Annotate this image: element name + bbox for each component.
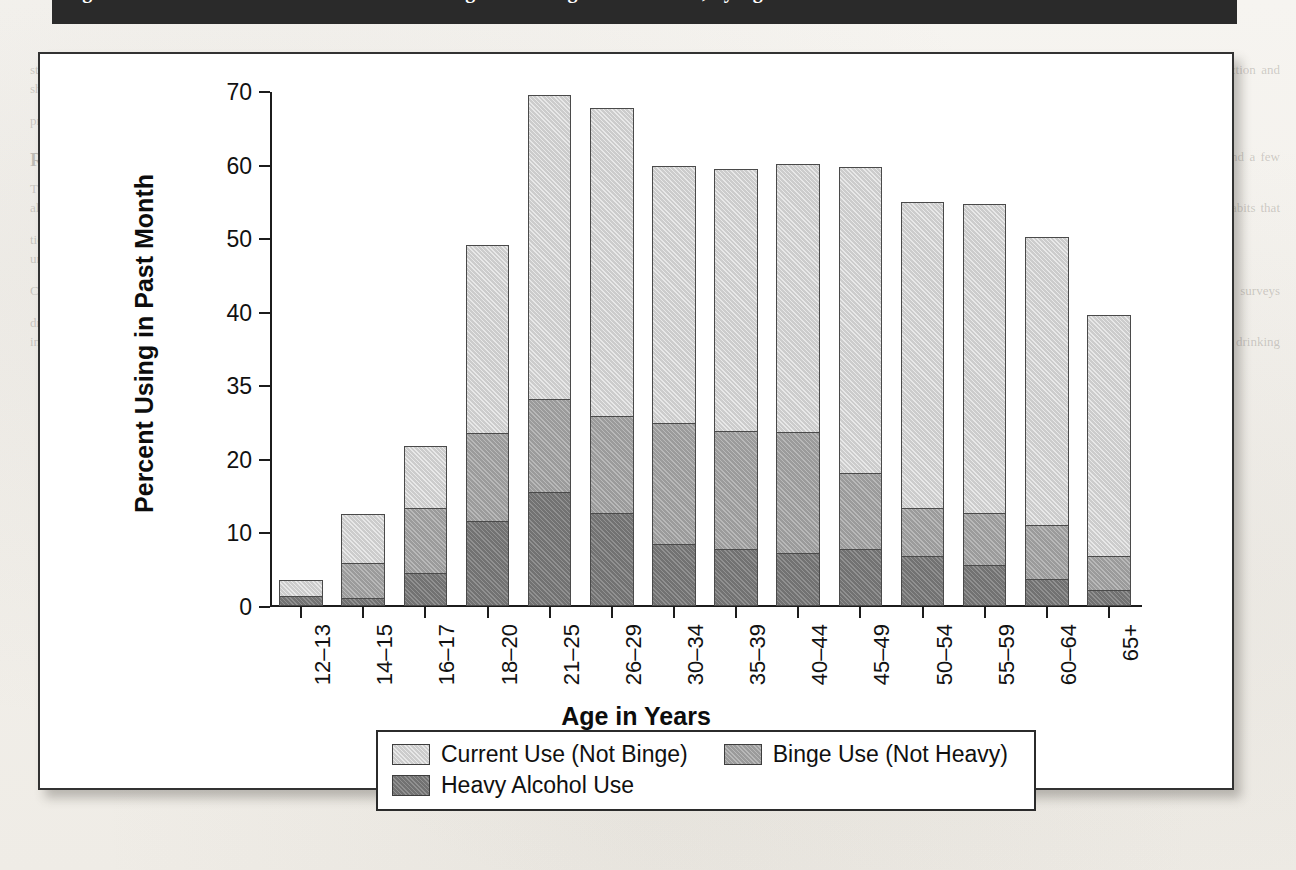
figure-title-band: Figure 1. Alcohol Use in the Past Month … xyxy=(52,0,1237,24)
y-axis-tick: 50 xyxy=(259,238,270,240)
y-axis-tick-label: 40 xyxy=(226,300,252,327)
bar-segment-heavy-use xyxy=(652,544,696,606)
y-axis-tick-label: 70 xyxy=(226,79,252,106)
bar-stack xyxy=(901,202,945,605)
bar-segment-heavy-use xyxy=(404,573,448,606)
y-axis-tick-label: 50 xyxy=(226,226,252,253)
bar-segment-heavy-use xyxy=(839,549,883,606)
x-axis-tick xyxy=(549,607,551,618)
bar-segment-heavy-use xyxy=(901,556,945,606)
bar-segment-heavy-use xyxy=(590,513,634,606)
y-axis-tick: 40 xyxy=(259,312,270,314)
bar-stack xyxy=(341,514,385,605)
bar-segment-binge-use xyxy=(466,433,510,521)
x-axis-tick-label: 40–44 xyxy=(807,624,833,685)
bar-stack xyxy=(528,95,572,606)
bar-segment-current-use xyxy=(590,108,634,416)
legend-entry-current-use: Current Use (Not Binge) xyxy=(392,741,688,768)
y-axis-tick-label: 35 xyxy=(226,373,252,400)
x-axis-tick xyxy=(673,607,675,618)
bar-segment-heavy-use xyxy=(341,598,385,606)
bar-segment-current-use xyxy=(1087,315,1131,557)
figure-panel: Percent Using in Past Month 010203540506… xyxy=(38,52,1234,790)
x-axis-tick-label: 60–64 xyxy=(1056,624,1082,685)
legend-row: Current Use (Not Binge) Binge Use (Not H… xyxy=(392,741,1020,768)
bar-segment-binge-use xyxy=(404,508,448,574)
legend-swatch-current-use-icon xyxy=(392,744,430,765)
x-axis-tick xyxy=(300,607,302,618)
y-axis-tick-label: 0 xyxy=(239,594,252,621)
x-axis-tick xyxy=(424,607,426,618)
legend-swatch-binge-use-icon xyxy=(724,744,762,765)
bar-segment-current-use xyxy=(652,166,696,424)
bar-stack xyxy=(1087,315,1131,605)
legend-row: Heavy Alcohol Use xyxy=(392,772,1020,799)
bar-segment-binge-use xyxy=(1087,556,1131,591)
legend-entry-binge-use: Binge Use (Not Heavy) xyxy=(724,741,1008,768)
x-axis-line xyxy=(270,605,1142,607)
bar-segment-current-use xyxy=(466,245,510,434)
bar-stack xyxy=(466,245,510,605)
x-axis-tick xyxy=(984,607,986,618)
bar-segment-current-use xyxy=(1025,237,1069,526)
figure-title: Figure 1. Alcohol Use in the Past Month … xyxy=(64,0,772,3)
x-axis-tick-label: 14–15 xyxy=(372,624,398,685)
bar-stack xyxy=(776,164,820,605)
bar-segment-heavy-use xyxy=(1087,590,1131,606)
y-axis-tick-label: 20 xyxy=(226,447,252,474)
x-axis-tick xyxy=(859,607,861,618)
bar-segment-current-use xyxy=(776,164,820,434)
legend-label-current-use: Current Use (Not Binge) xyxy=(441,741,688,768)
bar-segment-binge-use xyxy=(652,423,696,546)
bar-segment-binge-use xyxy=(839,473,883,550)
y-axis-title: Percent Using in Past Month xyxy=(130,174,159,513)
x-axis-tick-label: 16–17 xyxy=(434,624,460,685)
x-axis-title: Age in Years xyxy=(40,702,1232,731)
bar-segment-current-use xyxy=(963,204,1007,514)
y-axis-tick: 70 xyxy=(259,91,270,93)
x-axis-tick xyxy=(487,607,489,618)
x-axis-tick xyxy=(1108,607,1110,618)
bar-stack xyxy=(963,204,1007,605)
bar-segment-current-use xyxy=(901,202,945,510)
bar-segment-binge-use xyxy=(341,563,385,599)
bar-stack xyxy=(404,446,448,605)
bar-segment-heavy-use xyxy=(963,565,1007,606)
y-axis-tick: 60 xyxy=(259,165,270,167)
bar-stack xyxy=(1025,237,1069,605)
bar-segment-binge-use xyxy=(963,513,1007,566)
y-axis-tick: 20 xyxy=(259,459,270,461)
bar-segment-current-use xyxy=(714,169,758,432)
bar-segment-current-use xyxy=(404,446,448,509)
x-axis-tick-label: 35–39 xyxy=(745,624,771,685)
x-axis-tick-label: 30–34 xyxy=(683,624,709,685)
bar-stack xyxy=(714,169,758,605)
bar-segment-binge-use xyxy=(528,399,572,493)
y-axis-line xyxy=(270,92,272,607)
x-axis-tick-label: 21–25 xyxy=(559,624,585,685)
x-axis-tick-label: 65+ xyxy=(1118,624,1144,661)
bar-stack xyxy=(279,580,323,605)
x-axis-tick-label: 18–20 xyxy=(497,624,523,685)
x-axis-tick xyxy=(735,607,737,618)
x-axis-tick-label: 12–13 xyxy=(310,624,336,685)
y-axis-tick: 10 xyxy=(259,532,270,534)
legend-swatch-heavy-use-icon xyxy=(392,775,430,796)
bar-stack xyxy=(839,167,883,605)
y-axis-tick: 35 xyxy=(259,385,270,387)
x-axis-tick-label: 45–49 xyxy=(869,624,895,685)
x-axis-tick xyxy=(1046,607,1048,618)
bar-segment-binge-use xyxy=(1025,525,1069,579)
x-axis-tick-label: 26–29 xyxy=(621,624,647,685)
bar-segment-binge-use xyxy=(901,508,945,557)
x-axis-tick xyxy=(362,607,364,618)
x-axis-tick xyxy=(611,607,613,618)
bar-segment-current-use xyxy=(279,580,323,598)
legend-entry-heavy-use: Heavy Alcohol Use xyxy=(392,772,634,799)
y-axis-tick-label: 10 xyxy=(226,520,252,547)
y-axis-tick: 0 xyxy=(259,606,270,608)
y-axis-tick-label: 60 xyxy=(226,153,252,180)
bar-segment-current-use xyxy=(341,514,385,564)
bar-stack xyxy=(590,108,634,605)
bar-segment-heavy-use xyxy=(279,596,323,606)
